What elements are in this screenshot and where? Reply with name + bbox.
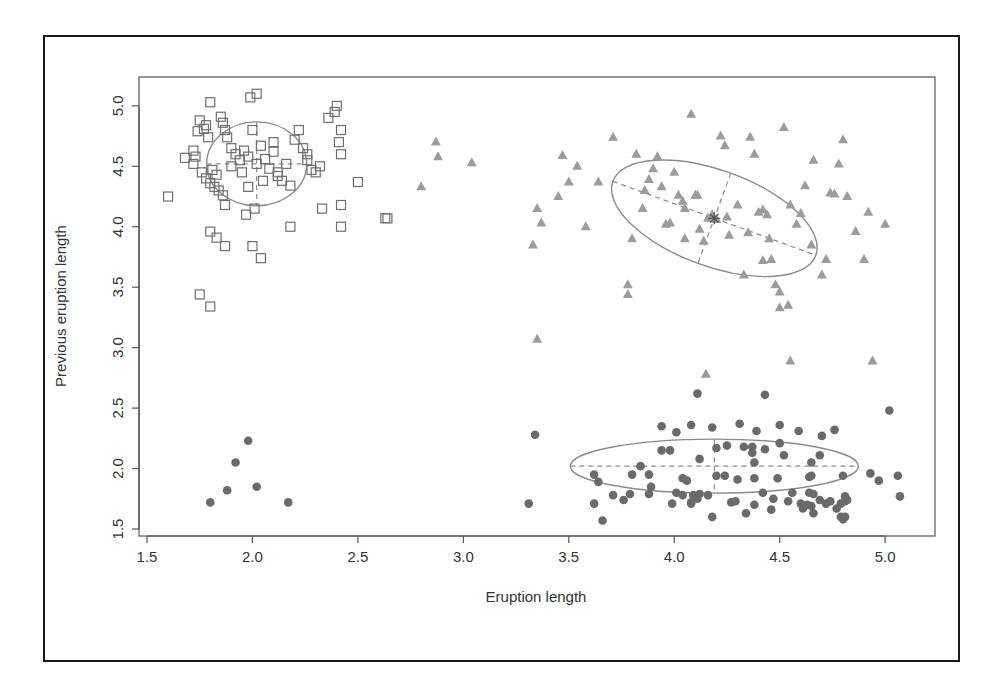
y-tick-label: 1.5: [109, 519, 126, 540]
triangle-marker: [724, 230, 734, 239]
circle-marker: [807, 458, 816, 467]
square-marker: [164, 192, 173, 201]
triangle-marker: [553, 191, 563, 200]
triangle-marker: [638, 203, 648, 212]
triangle-marker: [528, 239, 538, 248]
triangle-marker: [644, 174, 654, 183]
circle-marker: [223, 486, 232, 495]
circle-marker: [794, 427, 803, 436]
triangle-marker: [657, 181, 667, 190]
circle-marker: [666, 446, 675, 455]
x-tick-label: 2.5: [347, 548, 368, 565]
circle-marker: [769, 494, 778, 503]
triangle-marker: [669, 167, 679, 176]
circle-marker: [775, 421, 784, 430]
square-marker: [337, 222, 346, 231]
circle-marker: [590, 499, 599, 508]
square-marker: [227, 162, 236, 171]
square-marker: [383, 214, 392, 223]
circle-marker: [837, 499, 846, 508]
triangle-marker: [817, 270, 827, 279]
x-tick-label: 3.5: [558, 548, 579, 565]
square-marker: [334, 138, 343, 147]
triangle-marker: [416, 181, 426, 190]
circle-marker: [636, 462, 645, 471]
triangle-marker: [770, 279, 780, 288]
circle-marker: [657, 446, 666, 455]
square-marker: [189, 146, 198, 155]
circle-marker: [767, 505, 776, 514]
plot-area: [139, 77, 935, 536]
square-marker: [318, 204, 327, 213]
triangle-marker: [627, 233, 637, 242]
square-marker: [330, 107, 339, 116]
x-tick-label: 4.5: [769, 548, 790, 565]
circle-marker: [748, 449, 757, 458]
triangle-marker: [699, 236, 709, 245]
triangle-marker: [834, 158, 844, 167]
circle-marker: [531, 430, 540, 439]
circle-marker: [807, 472, 816, 481]
circle-marker: [750, 458, 759, 467]
y-axis: 1.52.02.53.03.54.04.55.0: [109, 95, 139, 539]
circle-marker: [598, 516, 607, 525]
circle-marker: [647, 482, 656, 491]
cluster-3-circles: [206, 389, 904, 525]
triangle-marker: [716, 131, 726, 140]
y-tick-label: 4.0: [109, 216, 126, 237]
circle-marker: [885, 406, 894, 415]
circle-marker: [807, 502, 816, 511]
circle-marker: [708, 423, 717, 432]
square-marker: [206, 98, 215, 107]
square-marker: [252, 89, 261, 98]
circle-marker: [740, 442, 749, 451]
square-marker: [286, 181, 295, 190]
triangle-marker: [821, 254, 831, 263]
square-marker: [261, 155, 270, 164]
circle-marker: [788, 488, 797, 497]
square-marker: [246, 93, 255, 102]
circle-marker: [750, 474, 759, 483]
triangle-marker: [536, 218, 546, 227]
square-marker: [206, 227, 215, 236]
triangle-marker: [722, 212, 732, 221]
circle-marker: [839, 515, 848, 524]
square-marker: [269, 138, 278, 147]
circle-marker: [839, 472, 848, 481]
circle-marker: [761, 445, 770, 454]
circle-marker: [645, 470, 654, 479]
square-marker: [256, 141, 265, 150]
triangle-marker: [808, 155, 818, 164]
square-marker: [193, 127, 202, 136]
circle-marker: [628, 470, 637, 479]
circle-marker: [731, 497, 740, 506]
circle-marker: [704, 491, 713, 500]
x-tick-label: 2.0: [242, 548, 263, 565]
circle-marker: [687, 499, 696, 508]
triangle-marker: [745, 132, 755, 141]
triangle-marker: [867, 355, 877, 364]
circle-marker: [799, 504, 808, 513]
y-tick-label: 2.0: [109, 458, 126, 479]
y-axis-title: Previous eruption length: [52, 225, 69, 387]
triangle-marker: [431, 137, 441, 146]
square-marker: [216, 112, 225, 121]
triangle-marker: [680, 233, 690, 242]
circle-marker: [712, 472, 721, 481]
circle-marker: [678, 491, 687, 500]
triangle-marker: [572, 161, 582, 170]
circle-marker: [809, 509, 818, 518]
x-axis-title: Eruption length: [486, 588, 587, 605]
circle-marker: [826, 497, 835, 506]
square-marker: [286, 222, 295, 231]
y-tick-label: 3.5: [109, 277, 126, 298]
circle-marker: [830, 426, 839, 435]
circle-marker: [231, 458, 240, 467]
square-marker: [242, 210, 251, 219]
triangle-marker: [733, 199, 743, 208]
circle-marker: [524, 499, 533, 508]
triangle-marker: [792, 219, 802, 228]
circle-marker: [805, 488, 814, 497]
circle-marker: [590, 470, 599, 479]
circle-marker: [693, 389, 702, 398]
